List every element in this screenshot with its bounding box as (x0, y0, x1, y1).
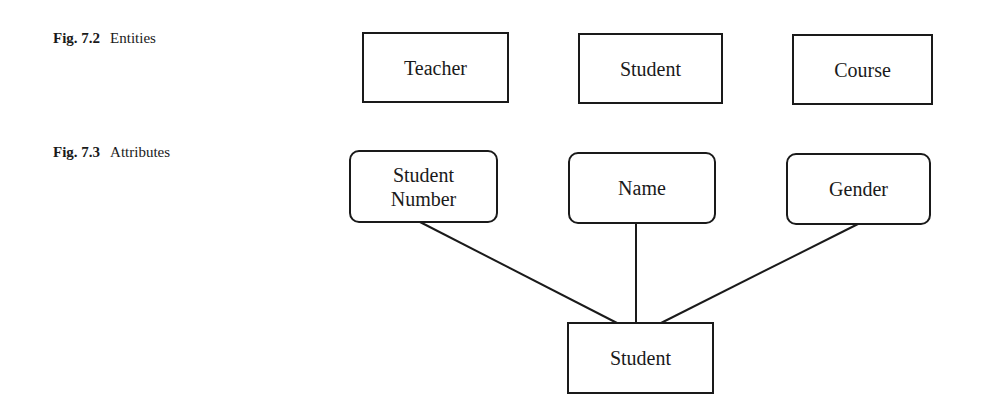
connector-student-number (420, 222, 617, 323)
connector-gender (661, 224, 858, 323)
attribute-label: Gender (829, 177, 888, 201)
attribute-label: Student Number (363, 163, 484, 211)
attribute-label: Name (618, 176, 666, 200)
entity-label: Student (610, 346, 671, 370)
entity-student-main: Student (567, 322, 714, 394)
attribute-name: Name (568, 152, 716, 224)
attribute-student-number: Student Number (349, 150, 498, 223)
attribute-gender: Gender (786, 153, 931, 225)
